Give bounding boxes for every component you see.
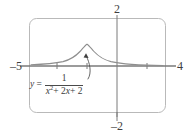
equation-equals-sign: = <box>36 80 41 90</box>
axis-label-right: 4 <box>177 59 183 73</box>
denominator-term-b: + 2 <box>70 86 82 96</box>
fraction-numerator: 1 <box>59 74 70 84</box>
equation-label: y = 1 x2+ 2x+ 2 <box>30 74 83 96</box>
equation-lhs: y <box>30 80 34 90</box>
axis-label-left: –5 <box>9 59 22 73</box>
equation-fraction: 1 x2+ 2x+ 2 <box>45 74 84 96</box>
plot-canvas: –5 4 2 –2 <box>0 0 193 135</box>
axis-label-top: 2 <box>114 2 120 16</box>
denominator-term-a: + 2 <box>53 86 65 96</box>
graph-figure: –5 4 2 –2 y = 1 x2+ 2x+ 2 <box>0 0 193 135</box>
fraction-denominator: x2+ 2x+ 2 <box>45 87 84 97</box>
axis-label-bottom: –2 <box>110 119 123 133</box>
